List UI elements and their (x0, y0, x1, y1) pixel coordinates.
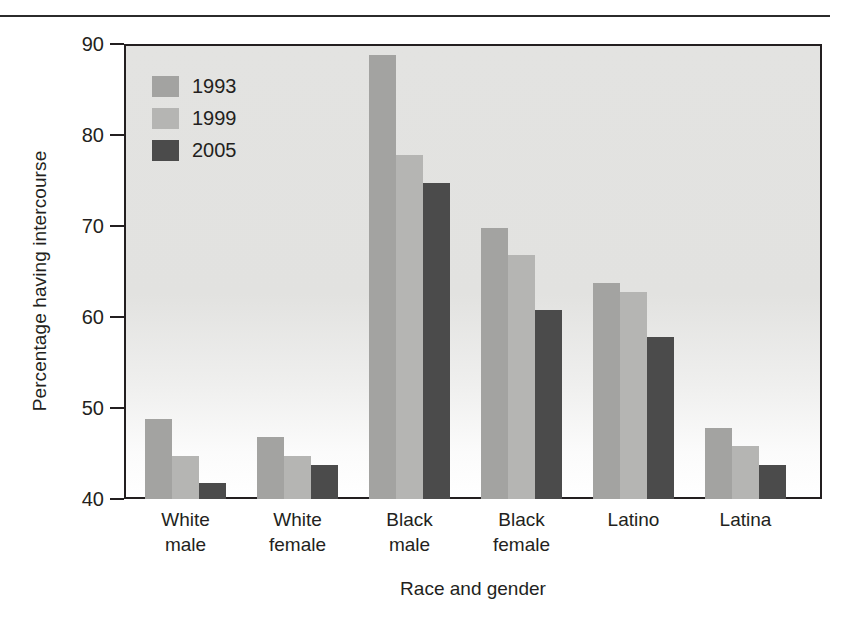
bar-white-male-1993 (145, 419, 172, 499)
legend-item-1993: 1993 (152, 70, 237, 102)
y-axis-tick (110, 316, 124, 318)
legend-label-1999: 1999 (192, 108, 237, 128)
bar-black-female-2005 (535, 310, 562, 499)
x-axis-category-label-line: female (233, 532, 363, 557)
x-axis-category-label-line: female (457, 532, 587, 557)
bar-white-female-1993 (257, 437, 284, 499)
x-axis-category-label-white-female: Whitefemale (233, 507, 363, 557)
bar-latino-1999 (620, 292, 647, 499)
x-axis-category-label-latino: Latino (569, 507, 699, 532)
bar-white-female-1999 (284, 456, 311, 500)
bar-latina-2005 (759, 465, 786, 499)
legend: 199319992005 (152, 70, 237, 166)
x-axis-category-label-black-female: Blackfemale (457, 507, 587, 557)
x-axis-category-label-line: male (121, 532, 251, 557)
top-divider-rule (0, 15, 830, 17)
bar-latina-1993 (705, 428, 732, 499)
x-axis-category-label-line: White (121, 507, 251, 532)
bar-black-male-1993 (369, 55, 396, 499)
bar-black-male-2005 (423, 183, 450, 500)
y-axis-tick-label: 50 (58, 397, 104, 420)
bar-chart-figure: Percentage having intercourse 9080706050… (0, 0, 858, 629)
bar-white-female-2005 (311, 465, 338, 499)
y-axis-tick-label: 80 (58, 124, 104, 147)
bar-white-male-2005 (199, 483, 226, 499)
y-axis-tick (110, 407, 124, 409)
x-axis-title: Race and gender (124, 578, 822, 600)
legend-item-2005: 2005 (152, 134, 237, 166)
bar-black-female-1999 (508, 255, 535, 499)
y-axis-tick (110, 134, 124, 136)
x-axis-category-label-line: White (233, 507, 363, 532)
legend-swatch-2005 (152, 140, 179, 161)
bar-black-female-1993 (481, 228, 508, 499)
legend-label-1993: 1993 (192, 76, 237, 96)
legend-item-1999: 1999 (152, 102, 237, 134)
x-axis-category-label-line: Latina (681, 507, 811, 532)
bar-latina-1999 (732, 446, 759, 499)
bar-latino-2005 (647, 337, 674, 499)
legend-swatch-1993 (152, 76, 179, 97)
x-axis-category-label-line: male (345, 532, 475, 557)
x-axis-category-label-white-male: Whitemale (121, 507, 251, 557)
x-axis-category-label-line: Black (345, 507, 475, 532)
x-axis-category-label-black-male: Blackmale (345, 507, 475, 557)
y-axis-tick-label: 60 (58, 306, 104, 329)
x-axis-category-label-latina: Latina (681, 507, 811, 532)
y-axis-tick (110, 225, 124, 227)
y-axis-title: Percentage having intercourse (29, 71, 51, 491)
y-axis-tick-label: 40 (58, 488, 104, 511)
bar-black-male-1999 (396, 155, 423, 499)
x-axis-category-label-line: Latino (569, 507, 699, 532)
y-axis-tick-label: 70 (58, 215, 104, 238)
y-axis-tick-label: 90 (58, 33, 104, 56)
y-axis-tick (110, 43, 124, 45)
bar-white-male-1999 (172, 456, 199, 500)
bar-latino-1993 (593, 283, 620, 499)
legend-label-2005: 2005 (192, 140, 237, 160)
y-axis-tick (110, 498, 124, 500)
x-axis-category-label-line: Black (457, 507, 587, 532)
legend-swatch-1999 (152, 108, 179, 129)
